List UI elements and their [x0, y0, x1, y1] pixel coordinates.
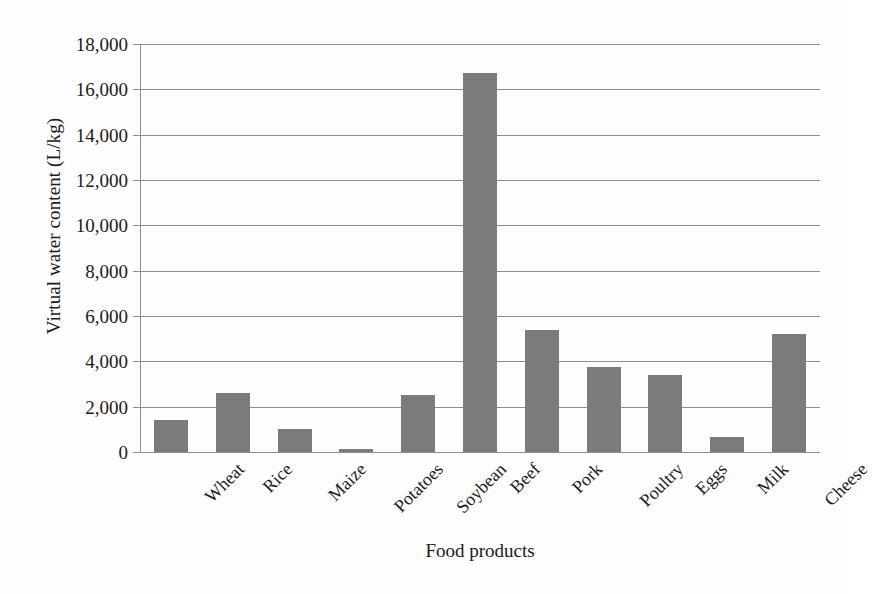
bar-potatoes [339, 449, 373, 452]
y-tick-label-18000: 18,000 [76, 35, 128, 54]
bar-maize [278, 429, 312, 452]
x-tick-label-maize: Maize [324, 459, 371, 506]
bar-eggs [648, 375, 682, 452]
bars-layer [140, 44, 820, 452]
y-tick-mark-16000 [133, 89, 140, 90]
y-tick-label-16000: 16,000 [76, 80, 128, 99]
y-tick-label-2000: 2,000 [85, 397, 128, 416]
x-tick-label-milk: Milk [754, 459, 794, 499]
x-tick-label-pork: Pork [568, 459, 607, 498]
y-tick-mark-10000 [133, 225, 140, 226]
y-tick-mark-8000 [133, 271, 140, 272]
y-tick-mark-14000 [133, 135, 140, 136]
y-tick-label-8000: 8,000 [85, 261, 128, 280]
x-tick-label-cheese: Cheese [820, 459, 872, 511]
y-tick-label-12000: 12,000 [76, 171, 128, 190]
bar-pork [525, 330, 559, 452]
y-axis-tick-labels: 02,0004,0006,0008,00010,00012,00014,0001… [0, 44, 128, 453]
y-tick-label-4000: 4,000 [85, 352, 128, 371]
y-tick-label-0: 0 [119, 443, 129, 462]
bar-rice [216, 393, 250, 452]
y-tick-label-6000: 6,000 [85, 307, 128, 326]
bar-beef [463, 73, 497, 452]
bar-milk [710, 437, 744, 452]
x-axis-title: Food products [140, 540, 820, 562]
x-tick-label-eggs: Eggs [692, 459, 732, 499]
x-axis-tick-labels: WheatRiceMaizePotatoesSoybeanBeefPorkPou… [140, 453, 820, 533]
bar-poultry [587, 367, 621, 452]
y-tick-mark-12000 [133, 180, 140, 181]
x-tick-label-potatoes: Potatoes [390, 459, 448, 517]
bar-wheat [154, 420, 188, 452]
x-tick-label-rice: Rice [258, 459, 296, 497]
x-tick-label-wheat: Wheat [201, 459, 249, 507]
x-tick-label-soybean: Soybean [452, 459, 511, 518]
y-tick-mark-0 [133, 452, 140, 453]
y-tick-mark-6000 [133, 316, 140, 317]
bar-soybean [401, 395, 435, 452]
y-tick-mark-4000 [133, 361, 140, 362]
y-tick-label-10000: 10,000 [76, 216, 128, 235]
bar-cheese [772, 334, 806, 452]
y-tick-mark-2000 [133, 407, 140, 408]
y-tick-label-14000: 14,000 [76, 125, 128, 144]
x-tick-label-beef: Beef [506, 459, 545, 498]
x-tick-label-poultry: Poultry [635, 459, 687, 511]
y-tick-mark-18000 [133, 44, 140, 45]
